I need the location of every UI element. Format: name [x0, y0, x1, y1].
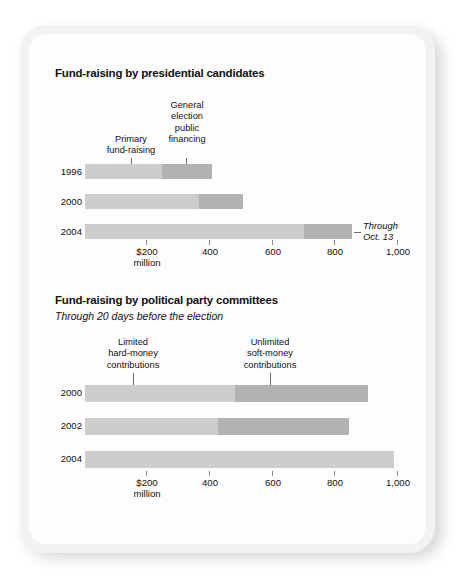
chart2-year-label-2000: 2000: [42, 387, 82, 398]
infographic-card: Fund-raising by presidential candidates …: [20, 25, 435, 553]
callout-general-line4: financing: [168, 134, 205, 144]
callout-primary-line1: Primary: [115, 134, 147, 144]
chart1-callout-general: General election public financing: [147, 100, 227, 146]
chart1-bar-1996-general: [162, 164, 212, 179]
callout-hard-line1: Limited: [118, 337, 148, 347]
callout-general-line1: General: [170, 100, 203, 110]
chart1-tick-400: [209, 240, 210, 245]
chart1-bar-2004-primary: [85, 224, 304, 239]
chart1-tick-200: [146, 240, 147, 245]
chart1-year-label-2004: 2004: [42, 226, 82, 237]
chart2-tick-600: [272, 471, 273, 476]
chart1-tick-800: [334, 240, 335, 245]
chart2-ticklabel-200: $200 million: [117, 477, 177, 499]
callout-hard-line2: hard-money: [108, 348, 158, 358]
chart2-bar-2000-soft: [235, 385, 368, 402]
chart2-tick-1000: [397, 471, 398, 476]
chart1-bar-1996-primary: [85, 164, 162, 179]
chart2-subtitle: Through 20 days before the election: [55, 310, 223, 322]
chart1-title: Fund-raising by presidential candidates: [55, 67, 264, 79]
chart1-ticklabel-200-unit: million: [117, 257, 177, 268]
chart1-note-line2: Oct. 13: [363, 231, 393, 242]
chart1-tick-1000: [397, 240, 398, 245]
chart2-bar-2004-hard: [85, 451, 394, 468]
chart2-bar-2000-hard: [85, 385, 235, 402]
callout-soft-line3: contributions: [244, 360, 297, 370]
chart2-year-label-2002: 2002: [42, 420, 82, 431]
callout-hard-line3: contributions: [107, 360, 160, 370]
chart1-ticklabel-200: $200 million: [117, 246, 177, 268]
callout-general-line3: public: [175, 123, 199, 133]
infographic-page: Fund-raising by presidential candidates …: [0, 0, 457, 579]
chart2-callout-soft: Unlimited soft-money contributions: [222, 337, 318, 371]
chart1-note: Through Oct. 13: [363, 220, 398, 242]
callout-soft-line1: Unlimited: [251, 337, 290, 347]
chart2-bar-2002-hard: [85, 418, 218, 435]
chart2-tick-800: [334, 471, 335, 476]
chart1-ticklabel-800: 800: [305, 246, 365, 257]
chart1-bar-2004-general: [304, 224, 352, 239]
chart2-ticklabel-200-value: $200: [136, 477, 157, 488]
chart2-year-label-2004: 2004: [42, 453, 82, 464]
chart1-year-label-2000: 2000: [42, 196, 82, 207]
chart1-bar-2000-primary: [85, 194, 199, 209]
chart2-title: Fund-raising by political party committe…: [55, 294, 278, 306]
callout-soft-line2: soft-money: [247, 348, 293, 358]
card-inner: Fund-raising by presidential candidates …: [29, 34, 444, 562]
chart1-ticklabel-400: 400: [180, 246, 240, 257]
chart2-ticklabel-1000: 1,000: [368, 477, 428, 488]
chart1-ticklabel-1000: 1,000: [368, 246, 428, 257]
chart2-callout-hard: Limited hard-money contributions: [88, 337, 178, 371]
chart2-ticklabel-800: 800: [305, 477, 365, 488]
chart2-tick-200: [146, 471, 147, 476]
chart1-ticklabel-600: 600: [243, 246, 303, 257]
chart2-bar-2002-soft: [218, 418, 349, 435]
chart2-ticklabel-600: 600: [243, 477, 303, 488]
callout-primary-line2: fund-raising: [107, 145, 156, 155]
chart2-ticklabel-200-unit: million: [117, 488, 177, 499]
chart1-note-line1: Through: [363, 220, 398, 231]
chart1-year-label-1996: 1996: [42, 166, 82, 177]
callout-general-line2: election: [171, 111, 203, 121]
chart1-tick-600: [272, 240, 273, 245]
chart1-bar-2000-general: [199, 194, 243, 209]
chart2-tick-400: [209, 471, 210, 476]
chart2-ticklabel-400: 400: [180, 477, 240, 488]
chart1-ticklabel-200-value: $200: [136, 246, 157, 257]
chart1-note-dash: [354, 232, 361, 233]
